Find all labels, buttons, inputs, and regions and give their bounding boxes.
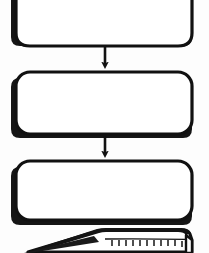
node-step-1[interactable] [11,0,192,46]
node-step-2[interactable] [11,72,192,138]
node-step-3[interactable] [11,161,192,225]
document-stack-end-cap [186,235,192,253]
document-stack-page-rule [105,239,186,240]
flowchart-svg [0,0,209,253]
node-step-3-body [16,161,192,220]
node-step-2-body [16,72,192,134]
node-step-1-body [16,0,192,46]
flowchart-canvas [0,0,209,253]
node-document-stack[interactable] [24,228,192,253]
